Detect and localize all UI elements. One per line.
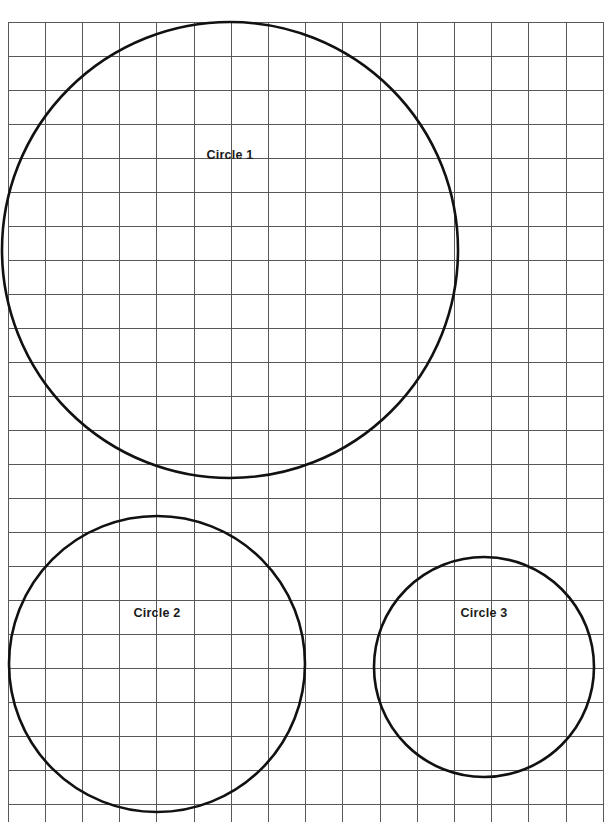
circle-2-label: Circle 2 <box>134 606 181 620</box>
circle-shapes <box>2 22 594 812</box>
grid-lines <box>8 22 603 822</box>
circle-1-label: Circle 1 <box>207 148 254 162</box>
circle-3-label: Circle 3 <box>461 606 508 620</box>
circle-3 <box>374 557 594 777</box>
circle-labels: Circle 1 Circle 2 Circle 3 <box>134 148 508 620</box>
worksheet-page: Circle 1 Circle 2 Circle 3 <box>0 0 605 822</box>
circles-grid-figure: Circle 1 Circle 2 Circle 3 <box>0 0 605 822</box>
